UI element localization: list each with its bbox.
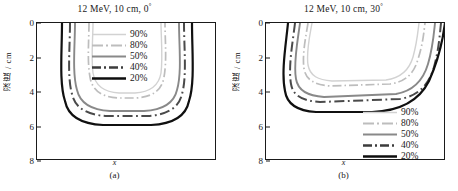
y-tick-label-0: 0 [259, 18, 264, 28]
y-tick-mark-6 [37, 126, 41, 127]
legend-item: 50% [92, 51, 147, 62]
panel-b-plot-area: 90% 80% 50% 40% 20% 0 2 4 [265, 22, 445, 160]
panel-a-caption: (a) [0, 170, 229, 180]
panel-b-legend: 90% 80% 50% 40% 20% [363, 107, 418, 162]
legend-key-40-icon [363, 140, 397, 151]
panel-b: 12 MeV, 10 cm, 30° 深度 / cm 90% [229, 0, 458, 191]
y-tick-mark-6 [266, 126, 270, 127]
legend-key-90-icon [92, 29, 126, 40]
legend-label-90: 90% [401, 108, 418, 118]
y-tick-label-4: 4 [30, 87, 35, 97]
legend-label-40: 40% [130, 63, 147, 73]
legend-item: 80% [92, 40, 147, 51]
legend-item: 40% [92, 62, 147, 73]
legend-label-90: 90% [130, 30, 147, 40]
panel-b-title-text: 12 MeV, 10 cm, 30 [304, 4, 380, 14]
legend-key-20-icon [92, 73, 126, 84]
panel-a: 12 MeV, 10 cm, 0° 深度 / cm 90% [0, 0, 229, 191]
legend-key-40-icon [92, 62, 126, 73]
panel-b-y-axis-label: 深度 / cm [231, 52, 243, 91]
legend-item: 80% [363, 118, 418, 129]
legend-item: 90% [92, 29, 147, 40]
legend-key-80-icon [92, 40, 126, 51]
panel-b-title-degree: ° [380, 2, 383, 9]
y-tick-label-0: 0 [30, 18, 35, 28]
y-tick-mark-4 [37, 92, 41, 93]
legend-label-50: 50% [130, 52, 147, 62]
y-tick-label-2: 2 [259, 53, 264, 63]
contour-20 [283, 23, 444, 112]
y-tick-label-6: 6 [259, 122, 264, 132]
panel-a-title: 12 MeV, 10 cm, 0° [0, 2, 229, 14]
legend-item: 40% [363, 140, 418, 151]
y-tick-mark-0 [266, 23, 270, 24]
legend-key-90-icon [363, 107, 397, 118]
legend-item: 90% [363, 107, 418, 118]
panel-a-title-degree: ° [149, 2, 152, 9]
contour-50 [295, 23, 435, 97]
legend-key-80-icon [363, 118, 397, 129]
panel-b-title: 12 MeV, 10 cm, 30° [229, 2, 458, 14]
y-tick-label-4: 4 [259, 87, 264, 97]
panel-b-x-axis-label: x [229, 158, 458, 167]
legend-label-80: 80% [130, 41, 147, 51]
contour-90 [307, 23, 419, 81]
y-tick-label-6: 6 [30, 122, 35, 132]
contour-80 [303, 23, 425, 86]
legend-label-50: 50% [401, 130, 418, 140]
contour-40 [290, 23, 441, 102]
panel-a-title-text: 12 MeV, 10 cm, 0 [78, 4, 149, 14]
panel-a-plot-area: 90% 80% 50% 40% 20% 0 2 4 [36, 22, 216, 160]
legend-label-80: 80% [401, 119, 418, 129]
y-tick-mark-2 [266, 57, 270, 58]
panel-b-caption: (b) [229, 170, 458, 180]
legend-label-20: 20% [130, 74, 147, 84]
panel-a-y-axis-label: 深度 / cm [2, 52, 14, 91]
panel-a-legend: 90% 80% 50% 40% 20% [92, 29, 147, 84]
panel-a-x-axis-label: x [0, 158, 229, 167]
y-tick-label-2: 2 [30, 53, 35, 63]
y-tick-mark-2 [37, 57, 41, 58]
y-tick-mark-0 [37, 23, 41, 24]
y-tick-mark-4 [266, 92, 270, 93]
legend-item: 50% [363, 129, 418, 140]
legend-key-50-icon [363, 129, 397, 140]
legend-label-40: 40% [401, 141, 418, 151]
legend-item: 20% [92, 73, 147, 84]
legend-key-50-icon [92, 51, 126, 62]
